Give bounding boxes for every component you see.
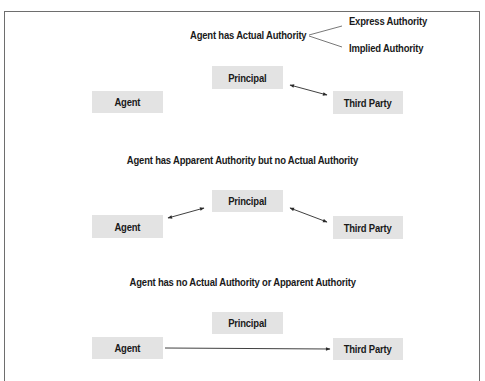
express-authority-label: Express Authority: [349, 15, 427, 27]
principal-box-3: Principal: [212, 312, 283, 334]
third-party-box-1: Third Party: [333, 91, 403, 114]
agent-label: Agent: [115, 96, 141, 108]
agent-label: Agent: [115, 221, 141, 233]
principal-label: Principal: [228, 195, 266, 207]
apparent-authority-heading: Agent has Apparent Authority but no Actu…: [0, 154, 485, 166]
agent-box-2: Agent: [92, 215, 163, 238]
implied-authority-label: Implied Authority: [349, 42, 423, 54]
principal-box-1: Principal: [212, 66, 283, 89]
third-party-box-3: Third Party: [333, 338, 403, 360]
principal-label: Principal: [228, 317, 266, 329]
principal-label: Principal: [228, 72, 266, 84]
no-authority-heading: Agent has no Actual Authority or Apparen…: [0, 276, 485, 288]
third-party-label: Third Party: [344, 343, 392, 355]
third-party-label: Third Party: [344, 97, 392, 109]
agent-box-3: Agent: [92, 337, 163, 359]
agent-box-1: Agent: [92, 91, 163, 113]
principal-box-2: Principal: [212, 190, 283, 212]
agent-label: Agent: [115, 342, 141, 354]
actual-authority-heading: Agent has Actual Authority: [190, 29, 306, 41]
third-party-box-2: Third Party: [333, 216, 403, 239]
third-party-label: Third Party: [344, 222, 392, 234]
